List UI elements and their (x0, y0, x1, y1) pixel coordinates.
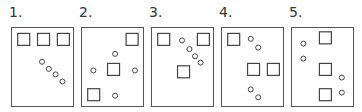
square-shape (178, 66, 190, 78)
circle-shape (91, 68, 96, 73)
circle-shape (187, 47, 192, 52)
square-shape (319, 63, 331, 75)
circle-shape (248, 87, 253, 92)
circle-shape (301, 56, 306, 61)
square-shape (88, 89, 100, 101)
circle-shape (339, 90, 344, 95)
circle-shape (301, 41, 306, 46)
circle-shape (256, 95, 261, 100)
panel-frame (12, 28, 74, 107)
circle-shape (193, 54, 198, 59)
circle-shape (46, 66, 51, 71)
square-shape (57, 33, 69, 45)
circle-shape (113, 93, 118, 98)
circle-shape (180, 38, 185, 43)
panel-frame (222, 28, 284, 107)
circle-shape (198, 60, 203, 65)
square-shape (158, 33, 170, 45)
circle-shape (339, 75, 344, 80)
square-shape (38, 33, 50, 45)
circle-shape (60, 79, 65, 84)
square-shape (18, 33, 30, 45)
circle-shape (248, 36, 253, 41)
square-shape (197, 33, 209, 45)
square-shape (319, 32, 331, 44)
circle-shape (113, 51, 118, 56)
square-shape (126, 33, 138, 45)
circle-shape (256, 45, 261, 50)
square-shape (267, 63, 279, 75)
panel-frame (292, 28, 354, 107)
panel-frame (152, 28, 214, 107)
circle-shape (132, 68, 137, 73)
square-shape (248, 63, 260, 75)
square-shape (319, 89, 331, 101)
square-shape (108, 63, 120, 75)
square-shape (228, 33, 240, 45)
circle-shape (40, 59, 45, 64)
puzzle-figure (0, 0, 362, 112)
circle-shape (53, 72, 58, 77)
